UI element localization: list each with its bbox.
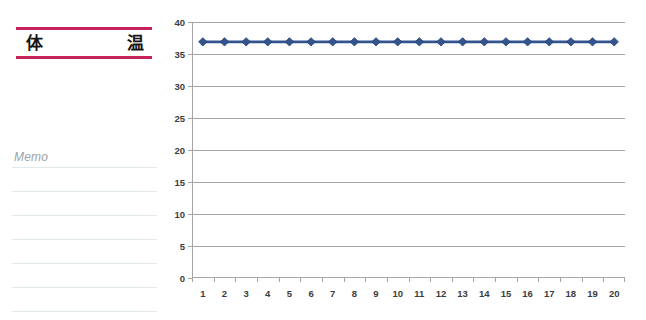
plot-area: 4035302520151050 12345678910111213141516… [192, 22, 625, 278]
x-axis-tick [257, 278, 258, 282]
x-axis-label: 15 [501, 288, 512, 299]
x-axis-tick [430, 278, 431, 282]
y-axis-label: 30 [174, 81, 185, 92]
y-axis-label: 10 [174, 209, 185, 220]
data-point-marker [264, 38, 272, 46]
data-point-marker [220, 38, 228, 46]
x-axis-tick [214, 278, 215, 282]
temperature-chart-page: 体 温 Memo 4035302520151050 12345678910111… [0, 0, 646, 320]
data-point-marker [242, 38, 250, 46]
data-point-marker [458, 38, 466, 46]
left-panel: 体 温 Memo [0, 0, 168, 320]
x-axis-tick [344, 278, 345, 282]
x-axis-label: 9 [373, 288, 378, 299]
x-axis-tick [582, 278, 583, 282]
x-axis-tick [495, 278, 496, 282]
x-axis-label: 7 [330, 288, 335, 299]
y-axis-label: 0 [180, 273, 185, 284]
temperature-line-chart: 4035302520151050 12345678910111213141516… [168, 0, 646, 320]
x-axis-label: 20 [609, 288, 620, 299]
x-axis-label: 10 [392, 288, 403, 299]
x-axis-label: 6 [308, 288, 313, 299]
page-title: 体 温 [16, 30, 152, 56]
x-axis-tick [235, 278, 236, 282]
memo-line [12, 287, 157, 288]
memo-line [12, 167, 157, 168]
data-point-marker [567, 38, 575, 46]
y-axis-label: 35 [174, 49, 185, 60]
x-axis-label: 17 [544, 288, 555, 299]
memo-label: Memo [14, 150, 48, 164]
series-temperature [192, 22, 625, 278]
x-axis-tick [624, 278, 625, 282]
data-point-marker [502, 38, 510, 46]
data-point-marker [588, 38, 596, 46]
data-point-marker [307, 38, 315, 46]
x-axis-label: 3 [243, 288, 248, 299]
x-axis-tick [279, 278, 280, 282]
x-axis-tick [517, 278, 518, 282]
x-axis-label: 8 [352, 288, 357, 299]
y-axis-label: 40 [174, 17, 185, 28]
x-axis-tick [322, 278, 323, 282]
x-axis-label: 1 [200, 288, 205, 299]
x-axis-label: 11 [414, 288, 424, 299]
data-point-marker [480, 38, 488, 46]
data-point-marker [437, 38, 445, 46]
x-axis-label: 19 [587, 288, 598, 299]
x-axis-tick [452, 278, 453, 282]
y-axis-label: 5 [180, 241, 185, 252]
title-block: 体 温 [16, 27, 152, 59]
x-axis-tick [560, 278, 561, 282]
x-axis-label: 16 [522, 288, 533, 299]
x-axis-tick [365, 278, 366, 282]
x-axis-label: 18 [566, 288, 577, 299]
data-point-marker [393, 38, 401, 46]
y-axis-label: 20 [174, 145, 185, 156]
x-axis-tick [387, 278, 388, 282]
data-point-marker [545, 38, 553, 46]
memo-line [12, 263, 157, 264]
x-axis-label: 14 [479, 288, 490, 299]
memo-line [12, 191, 157, 192]
x-axis-tick [300, 278, 301, 282]
data-point-marker [372, 38, 380, 46]
y-axis-label: 25 [174, 113, 185, 124]
data-point-marker [199, 38, 207, 46]
x-axis-tick [192, 278, 193, 282]
x-axis-label: 13 [457, 288, 468, 299]
x-axis-tick [603, 278, 604, 282]
data-point-marker [329, 38, 337, 46]
memo-line [12, 239, 157, 240]
x-axis-label: 2 [222, 288, 227, 299]
x-axis-tick [473, 278, 474, 282]
data-point-marker [350, 38, 358, 46]
x-axis-label: 5 [287, 288, 292, 299]
memo-line [12, 215, 157, 216]
title-rule-bottom [16, 56, 152, 59]
x-axis-label: 4 [265, 288, 270, 299]
x-axis-tick [538, 278, 539, 282]
x-axis-tick [409, 278, 410, 282]
data-point-marker [415, 38, 423, 46]
data-point-marker [285, 38, 293, 46]
data-point-marker [523, 38, 531, 46]
x-axis-label: 12 [436, 288, 447, 299]
y-axis-label: 15 [174, 177, 185, 188]
data-point-marker [610, 38, 618, 46]
memo-line [12, 311, 157, 312]
